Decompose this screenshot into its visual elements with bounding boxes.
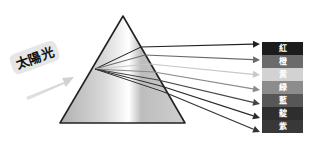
band-6: 紫 xyxy=(262,120,303,133)
arrowhead-icon xyxy=(253,85,260,92)
arrowhead-icon xyxy=(253,41,260,48)
ray-0 xyxy=(141,44,253,47)
band-3: 緑 xyxy=(262,81,303,94)
sunlight-arrow xyxy=(26,77,74,100)
band-5: 靛 xyxy=(262,107,303,120)
arrowhead-icon xyxy=(253,71,260,78)
arrowhead-icon xyxy=(252,113,260,120)
band-2: 黄 xyxy=(262,68,303,81)
arrowhead-icon xyxy=(253,56,260,63)
ray-4 xyxy=(158,80,253,102)
arrowhead-icon xyxy=(252,99,260,106)
ray-1 xyxy=(145,55,253,60)
band-1: 橙 xyxy=(262,55,303,68)
ray-2 xyxy=(150,64,253,74)
spectrum-bands: 紅橙黄緑藍靛紫 xyxy=(262,42,303,133)
band-0: 紅 xyxy=(262,42,303,55)
prism xyxy=(60,16,185,123)
band-4: 藍 xyxy=(262,94,303,107)
ray-3 xyxy=(154,72,253,89)
